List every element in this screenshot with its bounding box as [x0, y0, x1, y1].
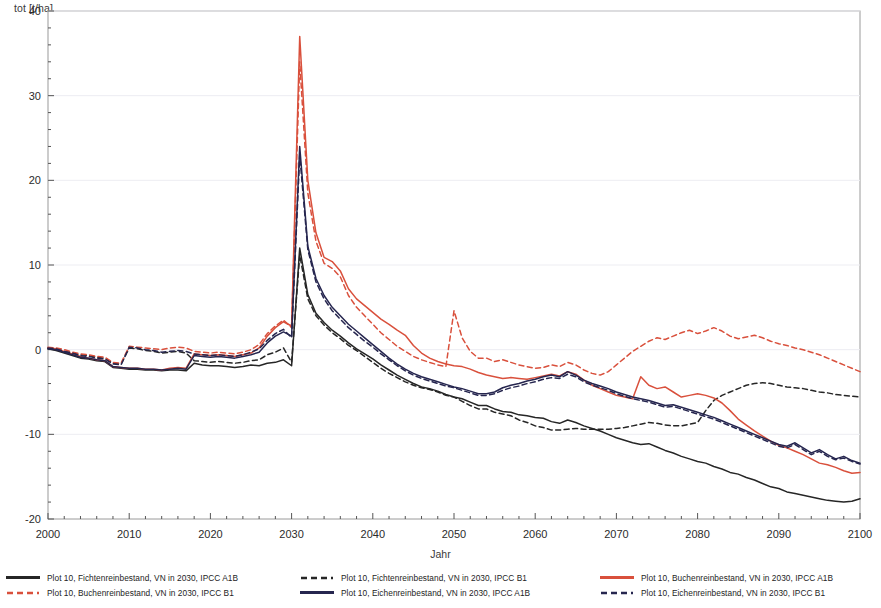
- y-tick-label: -10: [25, 428, 41, 440]
- legend-column: Plot 10, Buchenreinbestand, VN in 2030, …: [600, 570, 833, 600]
- y-tick-label: 20: [29, 174, 41, 186]
- chart-container: tot [t/ha] Jahr -20-10010203040200020102…: [0, 0, 881, 608]
- legend-label: Plot 10, Fichtenreinbestand, VN in 2030,…: [47, 573, 238, 583]
- legend-swatch-icon: [600, 587, 634, 599]
- x-tick-label: 2010: [117, 528, 141, 540]
- legend-item[interactable]: Plot 10, Buchenreinbestand, VN in 2030, …: [6, 585, 238, 600]
- y-tick-label: 0: [35, 344, 41, 356]
- x-tick-label: 2000: [36, 528, 60, 540]
- legend-label: Plot 10, Fichtenreinbestand, VN in 2030,…: [341, 573, 527, 583]
- line-plot: -20-100102030402000201020202030204020502…: [0, 0, 881, 560]
- x-tick-label: 2070: [604, 528, 628, 540]
- chart-legend: Plot 10, Fichtenreinbestand, VN in 2030,…: [0, 570, 881, 608]
- legend-label: Plot 10, Eichenreinbestand, VN in 2030, …: [641, 588, 825, 598]
- legend-item[interactable]: Plot 10, Fichtenreinbestand, VN in 2030,…: [6, 570, 238, 585]
- x-tick-label: 2040: [361, 528, 385, 540]
- legend-swatch-icon: [6, 572, 40, 584]
- legend-item[interactable]: Plot 10, Fichtenreinbestand, VN in 2030,…: [300, 570, 530, 585]
- legend-label: Plot 10, Eichenreinbestand, VN in 2030, …: [341, 588, 530, 598]
- legend-label: Plot 10, Buchenreinbestand, VN in 2030, …: [641, 573, 833, 583]
- x-tick-label: 2060: [523, 528, 547, 540]
- x-tick-label: 2050: [442, 528, 466, 540]
- x-tick-label: 2020: [198, 528, 222, 540]
- y-tick-label: 30: [29, 90, 41, 102]
- legend-item[interactable]: Plot 10, Buchenreinbestand, VN in 2030, …: [600, 570, 833, 585]
- legend-swatch-icon: [600, 572, 634, 584]
- legend-column: Plot 10, Fichtenreinbestand, VN in 2030,…: [6, 570, 238, 600]
- legend-item[interactable]: Plot 10, Eichenreinbestand, VN in 2030, …: [600, 585, 833, 600]
- y-tick-label: 10: [29, 259, 41, 271]
- x-tick-label: 2090: [767, 528, 791, 540]
- legend-swatch-icon: [300, 587, 334, 599]
- legend-swatch-icon: [300, 572, 334, 584]
- y-tick-label: -20: [25, 513, 41, 525]
- x-tick-label: 2080: [685, 528, 709, 540]
- x-tick-label: 2030: [279, 528, 303, 540]
- legend-swatch-icon: [6, 587, 40, 599]
- y-tick-label: 40: [29, 5, 41, 17]
- legend-item[interactable]: Plot 10, Eichenreinbestand, VN in 2030, …: [300, 585, 530, 600]
- x-tick-label: 2100: [848, 528, 872, 540]
- legend-label: Plot 10, Buchenreinbestand, VN in 2030, …: [47, 588, 234, 598]
- legend-column: Plot 10, Fichtenreinbestand, VN in 2030,…: [300, 570, 530, 600]
